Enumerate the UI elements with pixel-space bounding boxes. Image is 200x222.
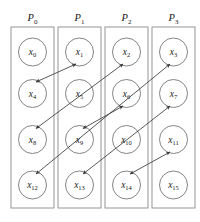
figure-container: P0 P1 P2 P3 (0, 0, 200, 222)
processor-label-p3: P3 (168, 12, 179, 26)
processor-label-p1: P1 (74, 12, 85, 26)
processor-labels: P0 P1 P2 P3 (27, 12, 179, 26)
processor-label-p0: P0 (27, 12, 38, 26)
processor-label-p2: P2 (121, 12, 132, 26)
swap-arrows (36, 64, 170, 174)
parallel-processor-diagram: P0 P1 P2 P3 (0, 0, 200, 222)
swap-arrow-x12-x3 (36, 64, 170, 174)
